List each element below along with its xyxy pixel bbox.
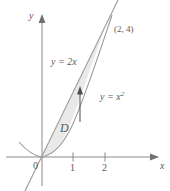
y-axis-label: y bbox=[29, 11, 33, 21]
origin-label: 0 bbox=[33, 161, 38, 171]
figure-region-d: y x 0 1 2 y = 2x y = x2 D (2, 4) bbox=[0, 0, 170, 191]
x-axis-label: x bbox=[160, 161, 164, 171]
y-axis-arrowhead bbox=[39, 14, 46, 23]
x-tick-label-2: 2 bbox=[102, 163, 107, 173]
parabola-equation-base: y = x bbox=[100, 91, 121, 102]
curve-y-equals-x-squared bbox=[19, 15, 112, 157]
region-label-d: D bbox=[60, 122, 69, 134]
intersection-point-label: (2, 4) bbox=[114, 25, 134, 34]
x-axis-arrowhead bbox=[150, 154, 159, 161]
parabola-equation-label: y = x2 bbox=[100, 91, 124, 102]
parabola-equation-exponent: 2 bbox=[121, 90, 125, 98]
graph-canvas bbox=[0, 0, 170, 191]
x-tick-label-1: 1 bbox=[70, 163, 75, 173]
line-equation-label: y = 2x bbox=[51, 57, 77, 67]
